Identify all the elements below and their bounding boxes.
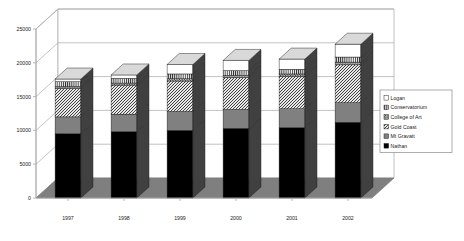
segment-logan <box>111 75 137 78</box>
stacked-column-chart: 0500010000150002000025000199719981999200… <box>0 0 464 241</box>
segment-side <box>81 123 93 198</box>
legend-swatch <box>384 134 389 139</box>
segment-side <box>305 117 317 198</box>
segment-conservatorium <box>279 69 305 74</box>
segment-conservatorium <box>223 71 249 76</box>
segment-side <box>193 119 205 198</box>
x-tick-label: 2000 <box>230 215 242 221</box>
bar-1998 <box>111 64 149 198</box>
segment-college-of-art <box>279 74 305 76</box>
legend-item-logan[interactable]: Logan <box>384 95 405 101</box>
segment-gold-coast <box>335 65 361 103</box>
legend-swatch <box>384 144 389 149</box>
legend-label: Mt Gravatt <box>391 133 416 139</box>
legend-item-college-of-art[interactable]: College of Art <box>384 114 422 120</box>
segment-college-of-art <box>111 83 137 85</box>
segment-logan <box>279 59 305 69</box>
segment-logan <box>335 44 361 57</box>
segment-side <box>249 117 261 198</box>
x-tick-label: 1999 <box>174 215 186 221</box>
segment-mt-gravatt <box>279 109 305 128</box>
segment-side <box>361 111 373 198</box>
segment-mt-gravatt <box>335 103 361 123</box>
x-tick-label: 2001 <box>286 215 298 221</box>
segment-conservatorium <box>335 57 361 62</box>
legend-label: Conservatorium <box>391 104 428 110</box>
bar-2002 <box>335 33 373 198</box>
legend-swatch <box>384 105 389 110</box>
legend-layer: LoganConservatoriumCollege of ArtGold Co… <box>380 90 452 153</box>
segment-side <box>137 121 149 198</box>
segment-gold-coast <box>111 85 137 114</box>
legend-item-mt-gravatt[interactable]: Mt Gravatt <box>384 133 415 139</box>
left-wall <box>36 9 58 198</box>
legend-swatch <box>384 96 389 101</box>
y-tick-label: 20000 <box>17 60 32 66</box>
segment-logan <box>55 79 81 82</box>
segment-logan <box>167 64 193 73</box>
legend-item-conservatorium[interactable]: Conservatorium <box>384 104 427 110</box>
legend-label: College of Art <box>391 114 423 120</box>
y-tick-label: 0 <box>28 195 31 201</box>
segment-nathan <box>167 130 193 198</box>
segment-mt-gravatt <box>55 117 81 134</box>
segment-nathan <box>111 132 137 198</box>
segment-nathan <box>335 122 361 198</box>
legend-item-nathan[interactable]: Nathan <box>384 143 407 149</box>
segment-gold-coast <box>223 78 249 110</box>
segment-college-of-art <box>335 62 361 65</box>
segment-mt-gravatt <box>223 109 249 128</box>
segment-college-of-art <box>223 75 249 77</box>
segment-nathan <box>55 134 81 198</box>
bar-2001 <box>279 48 317 198</box>
y-tick-label: 10000 <box>17 127 32 133</box>
x-tick-label: 1998 <box>118 215 130 221</box>
y-tick-label: 5000 <box>19 161 31 167</box>
bar-1997 <box>55 68 93 198</box>
segment-conservatorium <box>55 82 81 87</box>
segment-nathan <box>279 128 305 198</box>
segment-gold-coast <box>279 76 305 108</box>
legend-label: Nathan <box>391 143 408 149</box>
legend-label: Logan <box>391 95 406 101</box>
segment-nathan <box>223 128 249 198</box>
legend-label: Gold Coast <box>391 124 418 130</box>
segment-logan <box>223 60 249 70</box>
segment-gold-coast <box>55 88 81 116</box>
segment-conservatorium <box>111 78 137 83</box>
segment-mt-gravatt <box>167 111 193 130</box>
segment-gold-coast <box>167 81 193 111</box>
bar-2000 <box>223 49 261 198</box>
legend-swatch <box>384 124 389 129</box>
segment-conservatorium <box>167 74 193 79</box>
legend-swatch <box>384 115 389 120</box>
x-tick-label: 2002 <box>342 215 354 221</box>
segment-college-of-art <box>167 79 193 81</box>
bar-1999 <box>167 53 205 198</box>
segment-college-of-art <box>55 86 81 88</box>
y-tick-label: 15000 <box>17 94 32 100</box>
x-tick-label: 1997 <box>62 215 74 221</box>
y-tick-label: 25000 <box>17 26 32 32</box>
segment-mt-gravatt <box>111 114 137 132</box>
